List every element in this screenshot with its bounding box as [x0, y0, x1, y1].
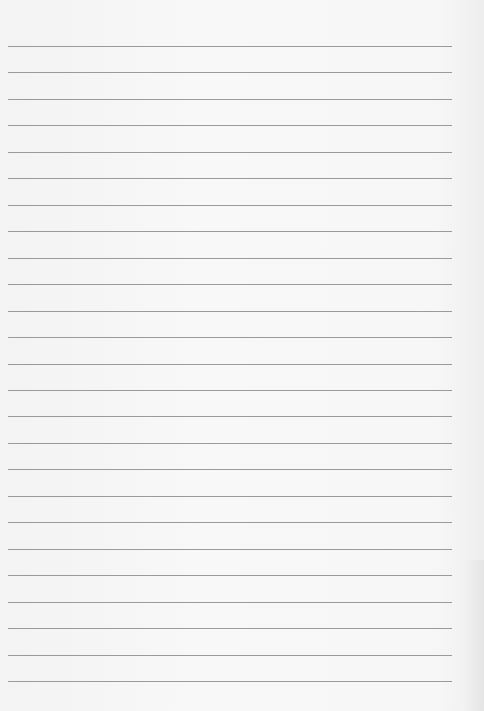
ruled-line: [8, 628, 452, 629]
ruled-line: [8, 443, 452, 444]
ruled-line: [8, 602, 452, 603]
ruled-line: [8, 205, 452, 206]
ruled-line: [8, 416, 452, 417]
ruled-line: [8, 575, 452, 576]
ruled-line: [8, 284, 452, 285]
ruled-line: [8, 72, 452, 73]
ruled-line: [8, 152, 452, 153]
ruled-line: [8, 364, 452, 365]
ruled-line: [8, 311, 452, 312]
ruled-line: [8, 231, 452, 232]
ruled-line: [8, 469, 452, 470]
ruled-line: [8, 681, 452, 682]
ruled-line: [8, 337, 452, 338]
lined-paper-page: [0, 0, 484, 711]
ruled-line: [8, 496, 452, 497]
ruled-line: [8, 125, 452, 126]
ruled-line: [8, 178, 452, 179]
ruled-line: [8, 522, 452, 523]
ruled-line: [8, 258, 452, 259]
page-edge-shadow: [464, 560, 484, 711]
ruled-line: [8, 655, 452, 656]
ruled-line: [8, 390, 452, 391]
ruled-line: [8, 46, 452, 47]
ruled-line: [8, 549, 452, 550]
ruled-line: [8, 99, 452, 100]
